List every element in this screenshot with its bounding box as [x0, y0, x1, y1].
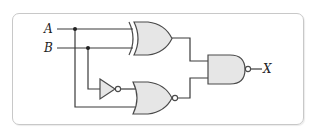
output-label-x: X [262, 62, 272, 76]
wire-b-to-not [88, 48, 100, 89]
junction-a [73, 27, 77, 31]
input-label-b: B [43, 41, 53, 55]
not-gate [100, 79, 121, 99]
xor-gate [129, 22, 172, 55]
wire-xor-to-nand [172, 38, 208, 61]
nand-gate [208, 55, 251, 84]
junction-b [86, 46, 90, 50]
wire-nor-to-nand [178, 78, 208, 98]
logic-circuit: A B X [0, 0, 313, 135]
nor-gate [133, 82, 178, 114]
input-label-a: A [43, 22, 53, 36]
